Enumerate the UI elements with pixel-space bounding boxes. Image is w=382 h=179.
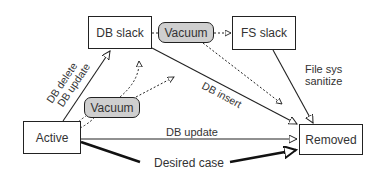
edge-label-db-update: DB update [166, 126, 218, 138]
node-vacuum-top-label: Vacuum [164, 26, 207, 40]
state-diagram: DB delete DB update DB insert DB slack V… [0, 0, 382, 179]
edge-active-to-vacuum-mid-2 [80, 118, 94, 128]
edge-desired-case-right [230, 150, 296, 162]
node-db-slack-label: DB slack [96, 26, 143, 40]
edge-vacuum-mid-to-dbslack [120, 61, 139, 97]
node-db-slack: DB slack [88, 16, 152, 49]
node-active-label: Active [36, 131, 69, 145]
edge-label-db-insert: DB insert [200, 79, 244, 110]
node-vacuum-top: Vacuum [158, 22, 214, 43]
edge-dbslack-to-removed [152, 48, 297, 124]
node-removed: Removed [299, 124, 363, 155]
edge-vacuum-mid-to-right [136, 77, 174, 97]
edge-label-sanitize: sanitize [305, 75, 342, 87]
node-vacuum-mid-label: Vacuum [90, 101, 133, 115]
node-removed-label: Removed [305, 133, 356, 147]
edge-label-desired-case: Desired case [154, 157, 224, 169]
node-fs-slack-label: FS slack [241, 26, 287, 40]
node-vacuum-mid: Vacuum [84, 97, 140, 118]
node-fs-slack: FS slack [232, 16, 296, 50]
edge-desired-case-left [81, 142, 140, 162]
node-active: Active [23, 121, 81, 154]
edge-label-file-sys: File sys [305, 63, 342, 75]
svg-text:DB insert: DB insert [200, 79, 244, 110]
